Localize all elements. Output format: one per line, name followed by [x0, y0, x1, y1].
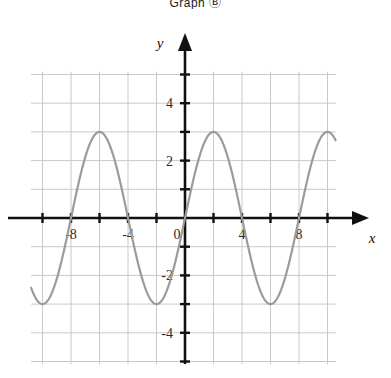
y-axis-arrow-icon	[178, 33, 192, 51]
graph-screenshot: Graph Ⓑ -8-44842-2-40 y x	[0, 0, 391, 378]
x-axis-arrow-icon	[352, 211, 369, 225]
sine-function-graph: -8-44842-2-40 y x	[0, 0, 391, 378]
y-tick-label: 2	[166, 154, 173, 169]
y-axis-label: y	[155, 35, 164, 51]
y-tick-label: 4	[166, 96, 173, 111]
y-tick-label: -4	[161, 326, 173, 341]
x-axis-label: x	[368, 230, 376, 246]
